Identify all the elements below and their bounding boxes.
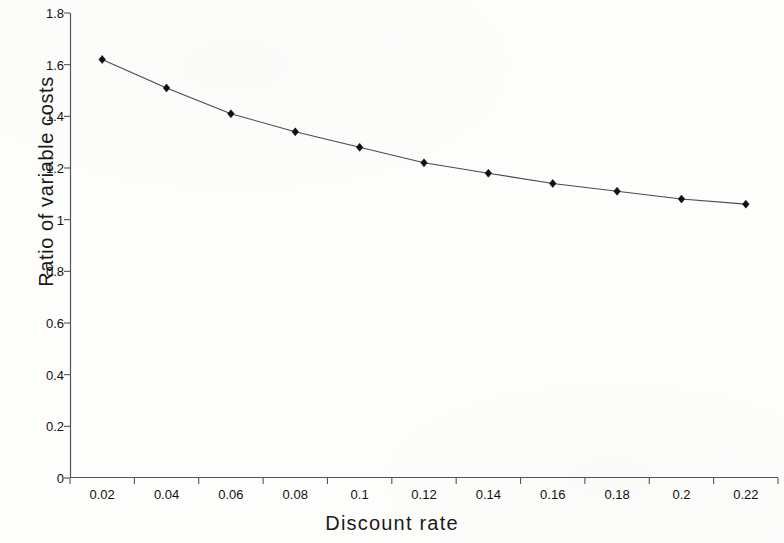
data-point-marker — [163, 84, 170, 92]
data-point-marker — [743, 200, 750, 208]
axis-lines — [70, 13, 778, 478]
axis-tick-marks — [64, 13, 778, 484]
data-point-marker — [485, 169, 492, 177]
data-point-marker — [614, 187, 621, 195]
x-tick-label: 0.04 — [132, 487, 202, 502]
plot-area — [70, 13, 778, 478]
x-tick-label: 0.06 — [196, 487, 266, 502]
data-point-marker — [678, 195, 685, 203]
x-tick-label: 0.12 — [389, 487, 459, 502]
x-tick-label: 0.1 — [325, 487, 395, 502]
data-point-markers — [99, 56, 749, 209]
data-point-marker — [421, 159, 428, 167]
x-tick-label: 0.22 — [711, 487, 781, 502]
x-tick-label: 0.2 — [646, 487, 716, 502]
x-tick-label: 0.18 — [582, 487, 652, 502]
chart-figure: Ratio of variable costs 00.20.40.60.811.… — [0, 0, 784, 543]
x-tick-label: 0.16 — [518, 487, 588, 502]
x-tick-label: 0.14 — [453, 487, 523, 502]
data-point-marker — [549, 180, 556, 188]
data-point-marker — [356, 143, 363, 151]
x-tick-label: 0.02 — [67, 487, 137, 502]
data-series-line — [102, 60, 746, 205]
data-point-marker — [228, 110, 235, 118]
data-point-marker — [99, 56, 106, 64]
x-axis-title: Discount rate — [0, 512, 784, 535]
x-tick-label: 0.08 — [260, 487, 330, 502]
data-point-marker — [292, 128, 299, 136]
plot-svg — [70, 13, 778, 478]
